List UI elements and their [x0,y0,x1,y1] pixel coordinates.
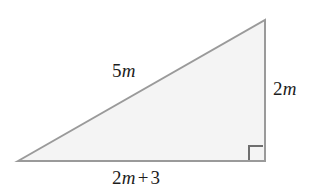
label-base-leg: 2m+3 [112,168,160,187]
right-triangle-graphic [0,0,314,191]
hypotenuse-coefficient: 5 [112,60,122,81]
base-leg-coefficient: 2 [112,167,122,188]
base-leg-constant: 3 [151,167,161,188]
label-vertical-leg: 2m [273,79,297,98]
vertical-leg-coefficient: 2 [273,78,283,99]
vertical-leg-variable: m [283,78,297,99]
figure-canvas: 5m 2m 2m+3 [0,0,314,191]
base-leg-operator: + [138,167,149,188]
base-leg-variable: m [122,167,136,188]
label-hypotenuse: 5m [112,61,136,80]
hypotenuse-variable: m [122,60,136,81]
triangle-shape [18,20,265,161]
